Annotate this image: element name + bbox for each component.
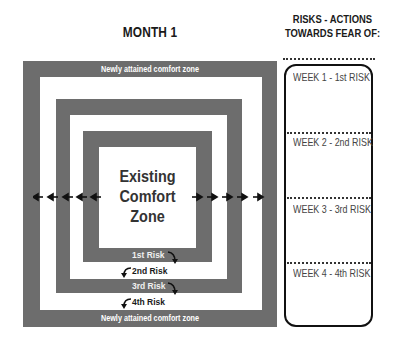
weeks-panel: [284, 64, 373, 327]
right-arrows-icon: [190, 192, 266, 202]
bottom-newly-attained-label: Newly attained comfort zone: [42, 313, 258, 323]
center-label-line2: Comfort: [106, 187, 188, 207]
risks-title-line2: TOWARDS FEAR OF:: [281, 26, 384, 40]
week-divider-3: [287, 197, 371, 199]
center-label-line1: Existing: [106, 167, 188, 187]
risk-progression-arrows-icon: [115, 248, 185, 310]
week-1-label: WEEK 1 - 1st RISK: [293, 71, 370, 83]
center-label-line3: Zone: [106, 207, 188, 227]
top-dotted-divider: [283, 58, 375, 60]
left-arrows-icon: [33, 192, 105, 202]
week-divider-4: [287, 262, 371, 264]
month-title: MONTH 1: [91, 24, 210, 40]
week-divider-2: [287, 132, 371, 134]
risks-title-line1: RISKS - ACTIONS: [281, 12, 384, 26]
week-4-label: WEEK 4 - 4th RISK: [293, 267, 370, 279]
week-3-label: WEEK 3 - 3rd RISK: [293, 203, 371, 215]
week-2-label: WEEK 2 - 2nd RISK: [293, 136, 373, 148]
top-newly-attained-label: Newly attained comfort zone: [42, 64, 258, 74]
